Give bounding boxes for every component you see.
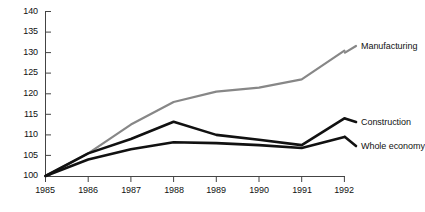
leader-whole-economy — [345, 137, 356, 146]
x-tick-label-1986: 1986 — [71, 185, 105, 195]
x-tick-label-1985: 1985 — [28, 185, 62, 195]
y-tick-label-110: 110 — [12, 129, 38, 139]
y-axis-ticks — [46, 12, 52, 177]
x-tick-label-1988: 1988 — [157, 185, 191, 195]
y-tick-label-140: 140 — [12, 6, 38, 16]
series-line-whole-economy — [46, 137, 345, 176]
y-tick-label-105: 105 — [12, 150, 38, 160]
leader-manufacturing — [345, 46, 356, 53]
series-line-manufacturing — [46, 51, 345, 176]
y-tick-label-100: 100 — [12, 170, 38, 180]
y-tick-label-125: 125 — [12, 67, 38, 77]
series-label-manufacturing: Manufacturing — [361, 41, 417, 51]
y-tick-label-130: 130 — [12, 47, 38, 57]
x-tick-label-1992: 1992 — [327, 185, 361, 195]
x-tick-label-1990: 1990 — [242, 185, 276, 195]
y-tick-label-135: 135 — [12, 26, 38, 36]
y-tick-label-115: 115 — [12, 109, 38, 119]
series-label-whole-economy: Whole economy — [361, 141, 425, 151]
x-tick-label-1987: 1987 — [114, 185, 148, 195]
x-tick-label-1991: 1991 — [285, 185, 319, 195]
x-axis-ticks — [46, 177, 345, 183]
leader-construction — [345, 119, 356, 123]
x-tick-label-1989: 1989 — [199, 185, 233, 195]
series-label-construction: Construction — [361, 117, 411, 127]
y-tick-label-120: 120 — [12, 88, 38, 98]
